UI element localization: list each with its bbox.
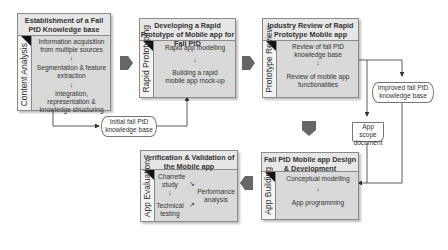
bidirectional-arrow-icon: ↕ xyxy=(158,189,182,197)
artifact-improved-knowledge-base: Improved fall PtD knowledge base xyxy=(372,82,434,103)
stage-side-label: Prototype Review xyxy=(264,26,274,93)
stage-side-label: Content Analysis xyxy=(19,43,29,106)
stage-title: Developing a Rapid Prototype of Mobile a… xyxy=(140,19,235,41)
step-text: Review of fall PtD knowledge base xyxy=(285,43,351,59)
stage-title: Establishment of a Fall PtD Knowledge ba… xyxy=(18,14,110,36)
step-text: App programming xyxy=(279,199,357,207)
artifact-initial-knowledge-base: Initial fall PtD knowledge base xyxy=(101,116,157,137)
stage-side-bar: App Evaluation xyxy=(141,170,155,221)
stage-rapid-prototyping: Developing a Rapid Prototype of Mobile a… xyxy=(139,18,236,98)
step-text: Conceptual modelling xyxy=(279,175,357,183)
down-arrow-icon: ↓ xyxy=(279,185,357,193)
bidirectional-arrow-icon: ↕ xyxy=(280,59,356,67)
artifact-app-scope-document: App scope document xyxy=(352,122,384,142)
stage-side-label: Rapid Prototyping xyxy=(141,25,151,93)
down-arrow-icon: ↓ xyxy=(35,54,108,62)
flow-arrow-3 xyxy=(302,121,316,136)
stage-side-label: App Building xyxy=(263,167,273,215)
stage-app-evaluation: Verification & Validation of the Mobile … xyxy=(140,150,238,222)
stage-prototype-review: Industry Review of Rapid Prototype Mobil… xyxy=(262,18,359,98)
stage-title: Verification & Validation of the Mobile … xyxy=(141,151,237,170)
step-text: Rapid app modelling xyxy=(157,44,233,52)
down-arrow-icon: ↓ xyxy=(35,81,108,89)
flow-arrow-1 xyxy=(120,56,133,70)
step-text: Review of mobile app functionalities xyxy=(280,73,356,89)
stage-title: Fall PtD Mobile app Design & Development xyxy=(262,153,358,172)
flow-arrow-4 xyxy=(240,176,253,190)
step-text: Performance analysis xyxy=(197,188,235,204)
step-text: Charrette study xyxy=(158,173,182,189)
stage-side-bar: Rapid Prototyping xyxy=(140,41,154,97)
stage-side-bar: App Building xyxy=(262,172,276,219)
stage-title: Industry Review of Rapid Prototype Mobil… xyxy=(263,19,358,41)
stage-side-bar: Content Analysis xyxy=(18,36,32,110)
step-text: Building a rapid mobile app mock-up xyxy=(162,69,228,85)
step-text: Technical testing xyxy=(156,202,184,218)
step-text: Segmentation & feature extraction xyxy=(35,64,108,80)
step-text: Integration, representation & knowledge … xyxy=(35,90,108,114)
step-text: Information acquisition from multiple so… xyxy=(35,38,108,54)
stage-side-label: App Evaluation xyxy=(142,160,152,217)
stage-app-building: Fall PtD Mobile app Design & Development… xyxy=(261,152,359,220)
down-arrow-icon: ↓ xyxy=(157,56,233,64)
stage-side-bar: Prototype Review xyxy=(263,41,277,97)
stage-content-analysis: Establishment of a Fall PtD Knowledge ba… xyxy=(17,13,111,111)
flow-arrow-2 xyxy=(242,56,255,70)
arrow-diagonal-icon: ↘ xyxy=(185,180,199,188)
